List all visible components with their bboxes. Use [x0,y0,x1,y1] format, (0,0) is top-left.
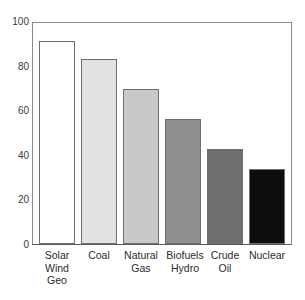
x-label-line: Geo [33,274,81,287]
bar-slot-solar-wind-geo [39,23,75,244]
y-tick-0: 0 [3,240,29,250]
x-label-line: Solar [33,249,81,262]
bar-slot-crude-oil [207,23,243,244]
bar-natural-gas[interactable] [123,89,159,244]
x-label-line: Nuclear [241,249,293,262]
bar-slot-nuclear [249,23,285,244]
x-label-nuclear: Nuclear [241,249,293,262]
bar-slot-natural-gas [123,23,159,244]
bar-solar-wind-geo[interactable] [39,41,75,244]
bar-coal[interactable] [81,59,117,244]
y-tick-80: 80 [3,62,29,72]
x-label-line: Oil [201,262,249,275]
bar-biofuels-hydro[interactable] [165,119,201,244]
y-tick-40: 40 [3,151,29,161]
y-tick-60: 60 [3,106,29,116]
y-tick-100: 100 [3,17,29,27]
x-label-solar-wind-geo: SolarWindGeo [33,249,81,287]
bars-layer [33,23,291,244]
x-label-line: Wind [33,262,81,275]
x-label-coal: Coal [75,249,123,262]
bar-nuclear[interactable] [249,169,285,244]
x-label-line: Coal [75,249,123,262]
bar-crude-oil[interactable] [207,149,243,244]
bar-slot-biofuels-hydro [165,23,201,244]
bar-chart: 100 80 60 40 20 0 SolarWindGeo Coal Nat [0,0,305,300]
y-axis-tick-labels: 100 80 60 40 20 0 [0,22,29,245]
bar-slot-coal [81,23,117,244]
y-tick-20: 20 [3,195,29,205]
x-axis-category-labels: SolarWindGeo Coal NaturalGas BiofuelsHyd… [33,249,291,297]
